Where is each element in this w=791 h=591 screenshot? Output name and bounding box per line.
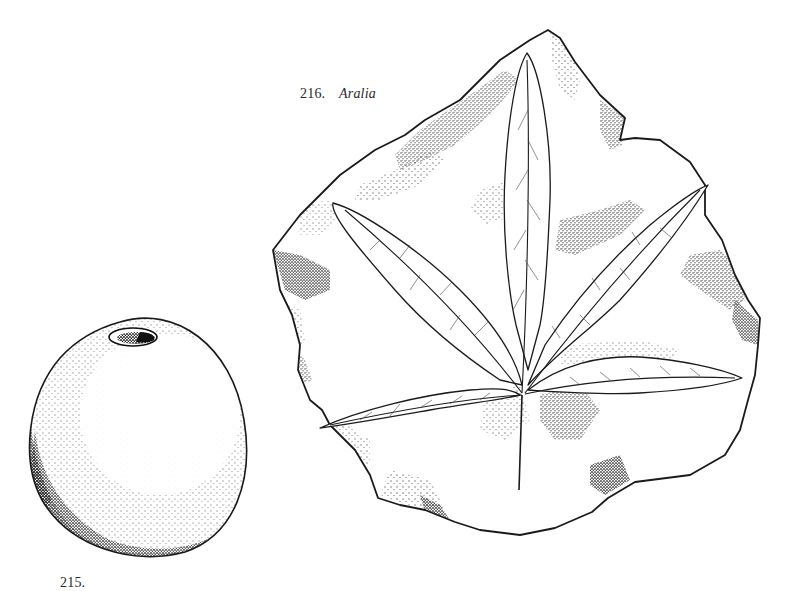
leaf-lobe-center (504, 53, 550, 370)
figure-number: 215. (60, 575, 85, 590)
figure-caption-aralia: 216. Aralia (300, 86, 376, 102)
figure-caption-seed: 215. (60, 575, 95, 591)
seed-pore (109, 328, 157, 346)
figure-taxon-name: Aralia (339, 86, 376, 101)
figure-number: 216. (300, 86, 325, 101)
aralia-fossil-figure (273, 30, 760, 535)
aralia-leaf (320, 53, 742, 428)
seed-figure (20, 300, 260, 570)
